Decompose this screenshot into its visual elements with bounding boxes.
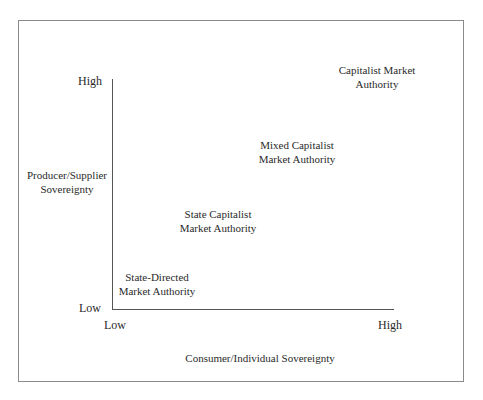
y-axis-title-line2: Sovereignty: [24, 182, 110, 196]
region-label-line1: Capitalist Market: [330, 63, 424, 77]
region-capitalist-market: Capitalist Market Authority: [330, 63, 424, 91]
y-axis-low-label: Low: [79, 301, 101, 315]
region-label-line2: Market Authority: [112, 284, 202, 298]
region-label-line1: State Capitalist: [172, 207, 264, 221]
x-axis-high-label: High: [378, 318, 402, 332]
y-axis-title: Producer/Supplier Sovereignty: [24, 168, 110, 196]
region-label-line1: Mixed Capitalist: [250, 138, 344, 152]
x-axis-low-label: Low: [104, 318, 126, 332]
x-axis-title: Consumer/Individual Sovereignty: [150, 351, 370, 365]
y-axis-title-line1: Producer/Supplier: [24, 168, 110, 182]
x-axis-line: [112, 309, 394, 310]
region-state-directed: State-Directed Market Authority: [112, 270, 202, 298]
region-label-line2: Market Authority: [250, 152, 344, 166]
region-state-capitalist: State Capitalist Market Authority: [172, 207, 264, 235]
region-label-line1: State-Directed: [112, 270, 202, 284]
region-label-line2: Authority: [330, 77, 424, 91]
y-axis-high-label: High: [78, 74, 102, 88]
region-label-line2: Market Authority: [172, 221, 264, 235]
region-mixed-capitalist: Mixed Capitalist Market Authority: [250, 138, 344, 166]
